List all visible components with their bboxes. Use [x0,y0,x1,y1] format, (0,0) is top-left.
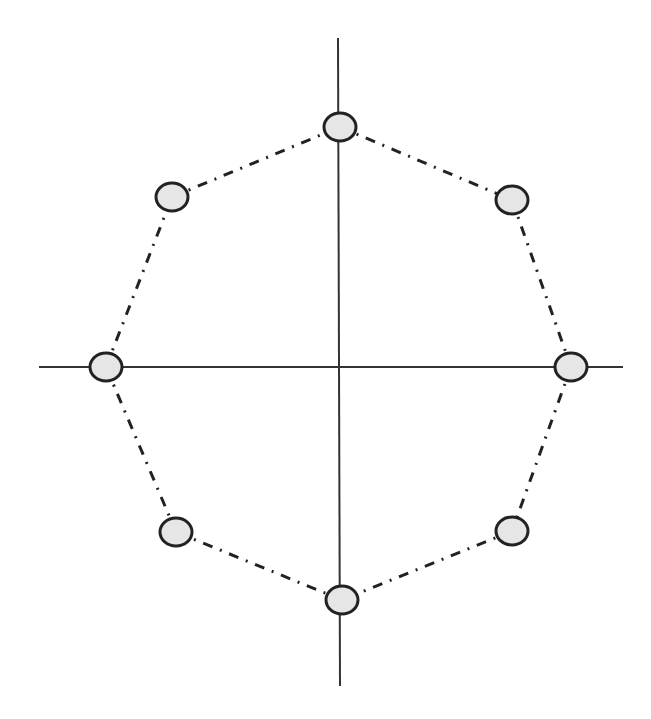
edge-bottom-right-to-bottom [342,531,512,600]
edge-bottom-to-bottom-left [176,532,342,600]
node-bottom-right [496,517,528,545]
node-bottom-left [160,518,192,546]
edge-bottom-left-to-left [106,367,176,532]
node-top-left [156,183,188,211]
node-right [555,353,587,381]
edge-top-to-top-right [340,127,512,200]
node-top [324,113,356,141]
node-left [90,353,122,381]
edge-left-to-top-left [106,197,172,367]
octagon-diagram [0,0,651,719]
edge-top-left-to-top [172,127,340,197]
edge-top-right-to-right [512,200,571,367]
edge-right-to-bottom-right [512,367,571,531]
node-top-right [496,186,528,214]
node-bottom [326,586,358,614]
